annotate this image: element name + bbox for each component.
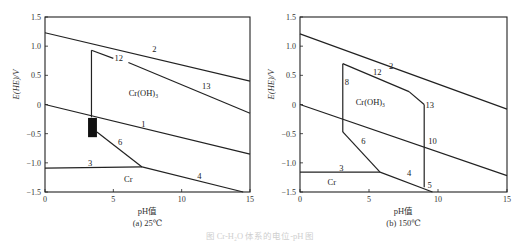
boundary-line-2	[300, 34, 507, 109]
y-tick-label: 0.5	[286, 71, 296, 80]
line-label-8: 8	[345, 77, 349, 87]
y-tick-label: 0	[37, 101, 41, 110]
x-axis-label: pH值	[138, 206, 157, 216]
y-tick-label: 0	[292, 101, 296, 110]
line-label-5: 5	[428, 180, 432, 190]
x-tick-label: 10	[178, 195, 186, 204]
x-tick-label: 10	[434, 195, 442, 204]
x-tick-label: 0	[43, 195, 47, 204]
x-tick-label: 15	[246, 195, 254, 204]
y-tick-label: −1.0	[281, 159, 296, 168]
line-label-4: 4	[197, 171, 202, 181]
panel-b-chart: 0510151.51.00.50−0.5−1.0−1.5pH值E(HE)/V(b…	[266, 13, 511, 228]
region-label: Cr(OH)₃	[129, 88, 158, 98]
panel-caption: (a) 25℃	[133, 218, 163, 228]
line-label-12: 12	[115, 53, 124, 63]
boundary-line-1	[45, 105, 250, 155]
boundary-line-12	[91, 50, 113, 58]
line-label-13: 13	[425, 100, 434, 110]
region-label: Cr	[124, 174, 133, 184]
x-tick-label: 0	[298, 195, 302, 204]
y-tick-label: −0.5	[281, 130, 296, 139]
y-axis-label: E(HE)/V	[266, 68, 276, 101]
line-label-3: 3	[339, 163, 343, 173]
y-tick-label: 1.5	[286, 13, 296, 22]
boundary-line-2	[45, 33, 250, 81]
y-tick-label: 1.0	[286, 42, 296, 51]
panel-a-chart: 0510151.51.00.50−0.5−1.0−1.5pH值E(HE)/V(a…	[11, 13, 254, 228]
x-axis-label: pH值	[394, 206, 413, 216]
y-tick-label: 1.0	[31, 42, 41, 51]
y-tick-label: 0.5	[31, 71, 41, 80]
y-axis-label: E(HE)/V	[11, 68, 21, 101]
line-label-3: 3	[88, 158, 92, 168]
x-tick-label: 5	[367, 195, 371, 204]
y-tick-label: −1.0	[26, 159, 41, 168]
region-label: Cr(OH)₃	[356, 97, 385, 107]
line-label-13: 13	[202, 81, 211, 91]
boundary-line-13	[409, 92, 424, 105]
boundary-line-3	[45, 167, 142, 168]
line-label-12: 12	[373, 67, 382, 77]
panel-caption: (b) 150℃	[386, 218, 420, 228]
x-tick-label: 15	[503, 195, 511, 204]
figure: 0510151.51.00.50−0.5−1.0−1.5pH值E(HE)/V(a…	[0, 0, 520, 243]
boundary-line-10	[300, 105, 507, 176]
line-label-6: 6	[361, 136, 365, 146]
plot-frame	[300, 17, 507, 192]
y-tick-label: −1.5	[26, 188, 41, 197]
y-tick-label: 1.5	[31, 13, 41, 22]
plot-frame	[45, 17, 250, 192]
line-label-10: 10	[428, 136, 437, 146]
x-tick-label: 5	[111, 195, 115, 204]
y-tick-label: −1.5	[281, 188, 296, 197]
figure-caption: 图 Cr-H₂O 体系的电位-pH 图	[206, 231, 315, 241]
line-label-2: 2	[389, 61, 393, 71]
line-label-6: 6	[118, 137, 122, 147]
highlight-box	[88, 118, 97, 137]
line-label-1: 1	[141, 119, 145, 129]
boundary-line-4	[142, 167, 243, 192]
region-label: Cr	[327, 177, 336, 187]
line-label-2: 2	[152, 44, 156, 54]
y-tick-label: −0.5	[26, 130, 41, 139]
line-label-4: 4	[407, 168, 412, 178]
